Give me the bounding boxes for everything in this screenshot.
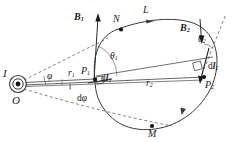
- label-radius-r1: r1: [68, 69, 75, 79]
- label-r1-sub: 1: [72, 72, 75, 78]
- angle-arc-phi: [44, 76, 46, 85]
- label-angle-theta1: θ1: [110, 52, 118, 62]
- vector-b1-arrowhead: [95, 13, 101, 22]
- point-marker-p1: [93, 77, 97, 81]
- label-element-dl1: dl1: [101, 74, 111, 84]
- label-dl1-sub: 1: [108, 77, 111, 83]
- label-b2-sub: 2: [187, 26, 190, 33]
- dashed-tangent-lower: [24, 89, 172, 126]
- label-theta2-sub: 2: [203, 38, 206, 44]
- vector-b1-shaft: [94, 17, 98, 80]
- point-marker-n: [119, 27, 123, 31]
- label-dl2-sub: 2: [215, 65, 218, 71]
- label-theta1-sub: 1: [115, 55, 118, 61]
- current-source-dot: [16, 82, 21, 87]
- label-field-b1: B1: [74, 12, 84, 22]
- label-origin-O: O: [12, 95, 20, 106]
- label-dphi-symbol: φ: [82, 93, 87, 103]
- label-p2-sub: 2: [211, 83, 214, 90]
- label-b1-base: B: [74, 11, 81, 22]
- label-loop-L: L: [143, 5, 149, 15]
- label-point-m: M: [148, 129, 156, 139]
- loop-direction-arrow-bottom: [181, 108, 187, 116]
- label-point-p1: P1: [81, 66, 90, 76]
- label-point-p2: P2: [205, 80, 214, 90]
- label-angle-dphi: dφ: [77, 94, 87, 104]
- right-angle-marker-p2: [193, 61, 203, 71]
- label-element-dl2: dl2: [208, 62, 218, 72]
- label-angle-phi: φ: [47, 72, 52, 82]
- label-p1-sub: 1: [87, 69, 90, 76]
- label-angle-theta2: θ2: [198, 35, 206, 45]
- figure-canvas: I O φ dφ r1 r2 P1 P2 N M L B1 B2 θ1 θ2: [0, 0, 235, 142]
- label-radius-r2: r2: [146, 79, 153, 89]
- label-b2-base: B: [180, 22, 187, 33]
- label-point-n: N: [113, 14, 120, 24]
- label-r2-sub: 2: [150, 82, 153, 88]
- label-current-I: I: [3, 68, 7, 79]
- label-field-b2: B2: [180, 23, 190, 33]
- label-b1-sub: 1: [81, 15, 84, 22]
